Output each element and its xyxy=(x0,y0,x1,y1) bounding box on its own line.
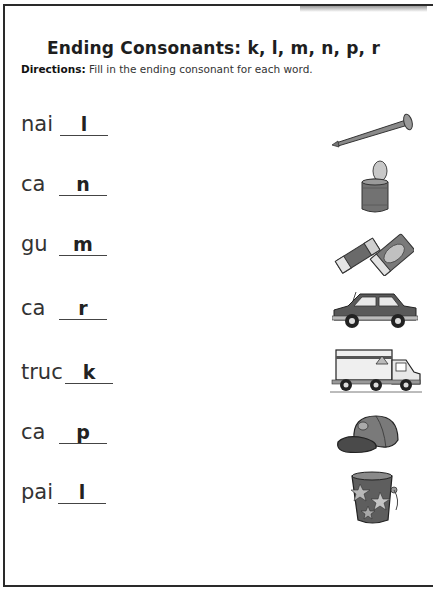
word-stem: ca xyxy=(21,172,45,196)
car-icon xyxy=(332,290,418,330)
answer-blank[interactable]: m xyxy=(59,233,107,256)
directions-label: Directions: xyxy=(21,63,86,75)
item-row-cap: ca p xyxy=(21,414,141,450)
answer-letter: n xyxy=(59,173,107,195)
chewing-gum-icon xyxy=(334,226,414,276)
tin-can-icon xyxy=(355,160,395,216)
answer-letter: k xyxy=(65,361,113,383)
item-row-nail: nai l xyxy=(21,106,141,142)
directions: Directions: Fill in the ending consonant… xyxy=(21,63,313,75)
answer-letter: p xyxy=(59,421,107,443)
item-row-truck: truc k xyxy=(21,354,151,390)
item-row-can: ca n xyxy=(21,166,141,202)
word-stem: truc xyxy=(21,360,63,384)
word-stem: pai xyxy=(21,480,53,504)
item-row-car: ca r xyxy=(21,290,141,326)
item-row-gum: gu m xyxy=(21,226,141,262)
answer-blank[interactable]: l xyxy=(60,113,108,136)
bucket-pail-icon xyxy=(348,470,402,526)
answer-blank[interactable]: l xyxy=(58,481,106,504)
truck-icon xyxy=(330,346,422,394)
answer-blank[interactable]: r xyxy=(59,297,107,320)
word-stem: ca xyxy=(21,420,45,444)
answer-blank[interactable]: p xyxy=(59,421,107,444)
worksheet-title: Ending Consonants: k, l, m, n, p, r xyxy=(0,38,427,58)
answer-letter: l xyxy=(60,113,108,135)
item-row-pail: pai l xyxy=(21,474,141,510)
directions-text: Fill in the ending consonant for each wo… xyxy=(86,63,313,75)
word-stem: nai xyxy=(21,112,53,136)
word-stem: ca xyxy=(21,296,45,320)
answer-blank[interactable]: n xyxy=(59,173,107,196)
answer-letter: m xyxy=(59,233,107,255)
answer-blank[interactable]: k xyxy=(65,361,113,384)
nail-icon xyxy=(332,110,418,150)
answer-letter: r xyxy=(59,297,107,319)
page-curl-shadow xyxy=(300,6,427,12)
baseball-cap-icon xyxy=(336,412,402,458)
answer-letter: l xyxy=(58,481,106,503)
word-stem: gu xyxy=(21,232,48,256)
